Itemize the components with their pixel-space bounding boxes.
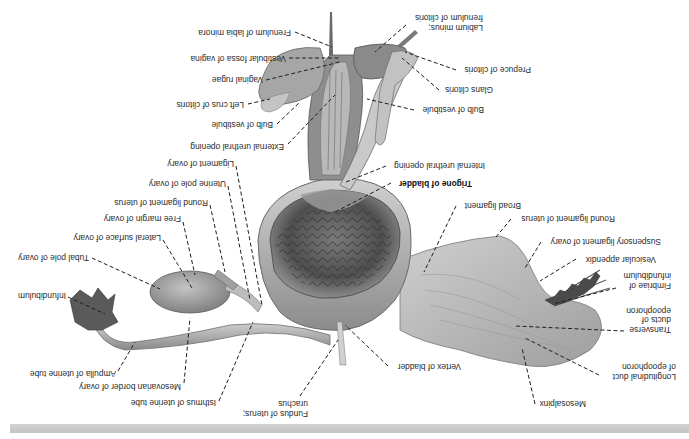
leader-line-round-ligament-right (496, 219, 511, 237)
label-frenulum-labia-minora: Frenulum of labia minora (193, 27, 291, 37)
label-external-urethral-opening: External urethral opening (184, 141, 284, 151)
label-infundibulum-left: Infundibulum (14, 290, 66, 300)
label-labium-minus-frenulum-clitoris: Labium minus; frenulum of clitoris (409, 12, 483, 32)
label-free-margin-ovary: Free margin of ovary (99, 213, 181, 223)
leader-line-free-margin-ovary (183, 222, 195, 275)
label-fimbriae-infundibulum: Fimbriae of infundibulum (619, 270, 671, 290)
label-vaginal-rugae: Vaginal rugae (207, 74, 263, 84)
label-vertex-bladder: Vertex of bladder (391, 361, 461, 371)
label-trigone-bladder: Trigone of bladder (394, 178, 472, 188)
label-fundus-uterus-urachus: Fundus of uterus; urachus (261, 398, 308, 418)
label-vestibular-fossa: Vestibular fossa of vagina (180, 53, 286, 63)
label-mesosalpinx: Mesosalpinx (531, 398, 586, 408)
footer-bar (10, 424, 689, 433)
label-longitudinal-duct-epoophoron: Longitudinal duct of epoophoron (602, 361, 676, 381)
label-mesovarian-border: Mesovarian border of ovary (71, 381, 181, 391)
label-bulb-vestibule-right: Bulb of vestibule (417, 104, 484, 114)
label-internal-urethral-opening: Internal urethral opening (388, 160, 485, 170)
label-round-ligament-right: Round ligament of uterus (514, 213, 615, 223)
label-ligament-ovary: Ligament of ovary (159, 158, 234, 168)
leader-line-mesovarian-border (184, 318, 190, 383)
label-uterine-pole-ovary: Uterine pole of ovary (139, 178, 226, 188)
leader-line-round-ligament-left (210, 205, 225, 272)
label-glans-clitoris: Glans clitoris (441, 84, 493, 94)
label-vesicular-appendix: Vesicular appendix (579, 254, 656, 264)
urinary-bladder (258, 178, 411, 365)
label-broad-ligament: Broad ligament (459, 200, 521, 210)
label-suspensory-ligament-ovary: Suspensory ligament of ovary (544, 236, 661, 246)
label-left-crus-clitoris: Left crus of clitoris (168, 99, 244, 109)
label-lateral-surface-ovary: Lateral surface of ovary (64, 232, 161, 242)
label-ampulla-uterine-tube: Ampulla of uterine tube (17, 368, 116, 378)
label-isthmus-uterine-tube: Isthmus of uterine tube (117, 397, 216, 407)
label-bulb-vestibule-left: Bulb of vestibule (206, 119, 273, 129)
anatomy-figure: Frenulum of labia minoraVestibular fossa… (0, 0, 689, 439)
leader-line-tubal-pole-ovary (92, 258, 160, 289)
label-transverse-ducts-epoophoron: Transverse ducts of epoophoron (627, 305, 671, 334)
label-tubal-pole-ovary: Tubal pole of ovary (14, 252, 89, 262)
label-round-ligament-left: Round ligament of uterus (107, 197, 208, 207)
leader-line-vesicular-appendix (540, 259, 576, 281)
leader-line-frenulum-labia-minora (295, 32, 332, 47)
label-prepuce-clitoris: Prepuce of clitoris (459, 64, 531, 74)
leader-line-fundus-uterus-urachus (300, 340, 338, 396)
leader-line-vertex-bladder (345, 325, 388, 366)
